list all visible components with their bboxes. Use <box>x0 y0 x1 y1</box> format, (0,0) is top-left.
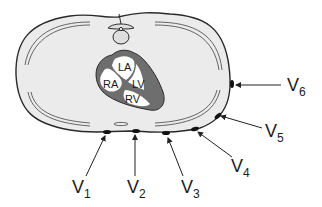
chest-lead-diagram: LA RA LV RV V1 V2 V3 V4 V5 V6 <box>0 0 322 207</box>
label-V4: V4 <box>231 156 250 180</box>
label-V3: V3 <box>181 177 200 201</box>
label-RV: RV <box>125 93 141 105</box>
electrode-V6 <box>230 80 234 88</box>
electrode-V1 <box>103 130 111 134</box>
label-V1: V1 <box>72 177 91 201</box>
label-LA: LA <box>118 61 132 73</box>
electrode-V2 <box>132 129 140 133</box>
label-V6: V6 <box>287 75 306 99</box>
label-LV: LV <box>132 78 145 90</box>
label-V2: V2 <box>127 177 146 201</box>
electrode-V3 <box>162 131 170 135</box>
label-RA: RA <box>103 78 119 90</box>
label-V5: V5 <box>265 121 284 145</box>
